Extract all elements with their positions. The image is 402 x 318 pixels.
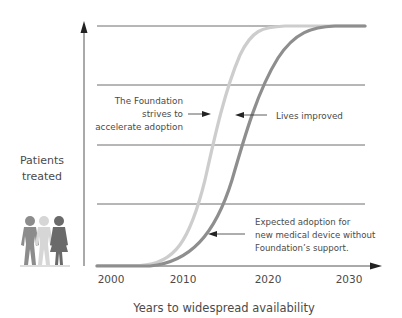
y-axis-label-line1: Patients <box>20 154 64 167</box>
adoption-chart: Patients treated 2000 2010 2020 2030 Yea… <box>0 0 402 318</box>
annotation-expected-adoption: Expected adoption for new medical device… <box>208 217 376 253</box>
expected-line1: Expected adoption for <box>255 217 351 227</box>
expected-line3: Foundation’s support. <box>255 243 349 253</box>
foundation-line3: accelerate adoption <box>95 122 183 132</box>
x-axis-arrow-icon <box>370 263 382 270</box>
people-icon <box>20 216 70 266</box>
y-axis-label-line2: treated <box>22 170 62 183</box>
lives-improved-label: Lives improved <box>276 111 343 121</box>
y-axis <box>81 21 88 266</box>
y-axis-arrow-icon <box>81 21 88 33</box>
arrow-right-icon <box>202 111 211 117</box>
x-tick-2030: 2030 <box>336 273 363 285</box>
annotation-foundation: The Foundation strives to accelerate ado… <box>95 96 211 132</box>
x-tick-2000: 2000 <box>98 273 125 285</box>
x-tick-2010: 2010 <box>170 273 197 285</box>
x-axis-label: Years to widespread availability <box>132 301 315 315</box>
foundation-line2: strives to <box>142 109 183 119</box>
expected-line2: new medical device without <box>255 230 376 240</box>
foundation-line1: The Foundation <box>114 96 183 106</box>
x-tick-2020: 2020 <box>255 273 282 285</box>
